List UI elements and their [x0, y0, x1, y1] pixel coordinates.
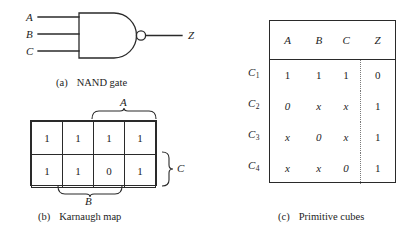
- nand-input-label-b: B: [26, 29, 33, 40]
- nand-gate-diagram: A B C Z: [0, 0, 215, 70]
- nand-input-label-c: C: [26, 46, 33, 57]
- kmap-cell: 1: [125, 155, 156, 188]
- karnaugh-map-grid: 1 1 1 1 1 1 0 1: [30, 120, 157, 186]
- cubes-cell: x: [270, 122, 305, 153]
- primitive-cubes-table: A B C Z 1 1 1 0 0 x x 1: [269, 20, 396, 183]
- cubes-cell: 1: [270, 60, 305, 92]
- cubes-cell: 1: [305, 60, 333, 92]
- cubes-cell: x: [333, 91, 361, 122]
- caption-text-c: Primitive cubes: [299, 211, 365, 222]
- cube-row-label-c2: C2: [248, 98, 259, 109]
- cube-row-label-c1: C1: [248, 67, 259, 78]
- table-row: x x 0 1: [270, 153, 395, 184]
- kmap-row-bottom: 1 1 0 1: [32, 155, 156, 188]
- table-row: 1 1 1 0: [270, 60, 395, 92]
- caption-tag-b: (b): [38, 211, 50, 222]
- kmap-row-top: 1 1 1 1: [32, 122, 156, 155]
- kmap-brace-top-a: [90, 108, 160, 120]
- cubes-cell: x: [270, 153, 305, 184]
- kmap-cell: 1: [32, 155, 63, 188]
- caption-nand-gate: (a)NAND gate: [56, 78, 127, 89]
- cubes-cell: 0: [333, 153, 361, 184]
- cubes-cell: 1: [360, 91, 395, 122]
- caption-tag-c: (c): [278, 211, 290, 222]
- cubes-cell: x: [305, 91, 333, 122]
- kmap-cell: 1: [32, 122, 63, 155]
- caption-karnaugh-map: (b)Karnaugh map: [38, 212, 121, 223]
- kmap-brace-right-c: [160, 150, 174, 188]
- kmap-label-a: A: [120, 97, 127, 108]
- cubes-cell: 1: [360, 153, 395, 184]
- cubes-cell: x: [305, 153, 333, 184]
- cubes-cell: 0: [270, 91, 305, 122]
- kmap-label-b: B: [85, 196, 92, 207]
- kmap-cell: 0: [94, 155, 125, 188]
- caption-primitive-cubes: (c)Primitive cubes: [278, 212, 364, 223]
- table-row: 0 x x 1: [270, 91, 395, 122]
- cubes-header-a: A: [270, 21, 305, 60]
- kmap-label-c: C: [177, 163, 184, 174]
- cubes-header-row: A B C Z: [270, 21, 395, 60]
- inversion-bubble-icon: [136, 31, 145, 40]
- kmap-cell: 1: [63, 122, 94, 155]
- nand-input-label-a: A: [26, 12, 33, 23]
- nand-output-label-z: Z: [188, 30, 194, 41]
- cubes-header-c: C: [333, 21, 361, 60]
- caption-text-b: Karnaugh map: [59, 211, 121, 222]
- cubes-header-z: Z: [360, 21, 395, 60]
- cube-row-label-c4: C4: [248, 160, 259, 171]
- figure-page: A B C Z (a)NAND gate A 1 1 1 1 1 1: [0, 0, 413, 234]
- caption-text-a: NAND gate: [77, 77, 127, 88]
- caption-tag-a: (a): [56, 77, 68, 88]
- cubes-cell: x: [333, 122, 361, 153]
- kmap-cell: 1: [125, 122, 156, 155]
- kmap-cell: 1: [94, 122, 125, 155]
- table-row: x 0 x 1: [270, 122, 395, 153]
- cubes-header-b: B: [305, 21, 333, 60]
- cubes-cell: 0: [360, 60, 395, 92]
- and-gate-body: [79, 13, 137, 58]
- cubes-cell: 1: [360, 122, 395, 153]
- cubes-cell: 1: [333, 60, 361, 92]
- kmap-cell: 1: [63, 155, 94, 188]
- cube-row-label-c3: C3: [248, 129, 259, 140]
- cubes-cell: 0: [305, 122, 333, 153]
